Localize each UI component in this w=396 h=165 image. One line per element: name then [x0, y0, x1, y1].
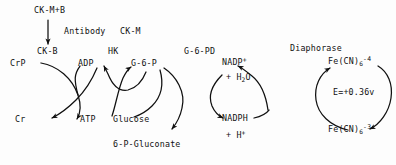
inhibited-isoenzyme-label: CK-M — [120, 27, 141, 35]
ferrocyanide-label: Fe(CN)6-4 — [328, 56, 371, 67]
arrow-crp-to-atp-branch — [41, 63, 80, 119]
6p-gluconate-label: 6-P-Gluconate — [113, 140, 181, 148]
arrow-adp-to-cr — [52, 68, 97, 118]
nadph-label: NADPH — [222, 114, 248, 122]
arrow-cycle2-to-adp — [104, 66, 146, 90]
nadp-charge: + — [243, 56, 247, 64]
analyte-label: CK-M+B — [34, 6, 65, 14]
ferricyanide-label: Fe(CN)6-3 — [328, 124, 371, 135]
nadp-plus-label: NADP+ — [222, 57, 247, 66]
arrow-nadp-to-nadph — [210, 75, 223, 118]
cr-label: Cr — [15, 115, 25, 123]
arrow-ferri-to-ferro — [316, 68, 348, 130]
crp-label: CrP — [10, 59, 26, 67]
antibody-label: Antibody — [64, 27, 106, 35]
ferrocyanide-text: Fe(CN) — [328, 56, 359, 66]
proton-charge: + — [242, 129, 246, 137]
water-label: + H2O — [226, 73, 251, 83]
ferrocyanide-charge: -4 — [363, 55, 371, 63]
glucose-label: Glucose — [113, 115, 149, 123]
arrow-cycle3-lower-right — [254, 110, 269, 118]
ferricyanide-charge: -3 — [363, 123, 371, 131]
hk-label: HK — [108, 47, 118, 55]
adp-label: ADP — [78, 59, 94, 67]
arrow-glucose-to-g6p — [112, 67, 131, 116]
electrode-potential-label: E=+0.36v — [333, 88, 375, 96]
reaction-cascade-diagram: CK-M+B Antibody CK-M CK-B HK G-6-PD Diap… — [0, 0, 396, 165]
ferricyanide-text: Fe(CN) — [328, 124, 359, 134]
g6pd-label: G-6-PD — [184, 47, 215, 55]
reaction-arrows-layer — [0, 0, 396, 165]
atp-label: ATP — [80, 115, 96, 123]
proton-label: + H+ — [226, 130, 246, 139]
g6p-label: G-6-P — [131, 59, 157, 67]
arrow-ferro-to-ferri — [370, 66, 391, 129]
water-text: + H — [226, 72, 242, 82]
water-oxygen: O — [246, 72, 251, 82]
arrow-g6p-to-6pgluconate — [164, 68, 183, 129]
proton-text: + H — [226, 130, 242, 140]
diaphorase-label: Diaphorase — [290, 44, 342, 52]
product-isoenzyme-label: CK-B — [37, 47, 58, 55]
nadp-text: NADP — [222, 57, 243, 67]
arrow-cycle2-right-limb — [134, 70, 162, 117]
